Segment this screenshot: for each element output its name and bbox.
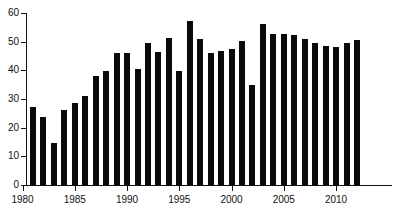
bar bbox=[281, 34, 287, 185]
y-axis-tick-label: 10 bbox=[0, 151, 19, 161]
y-axis-line bbox=[26, 13, 27, 186]
bar bbox=[135, 69, 141, 185]
bar bbox=[218, 51, 224, 185]
bar bbox=[145, 43, 151, 185]
bar bbox=[260, 24, 266, 185]
x-axis-tick bbox=[336, 186, 337, 191]
x-axis-line bbox=[26, 185, 392, 186]
bar bbox=[197, 39, 203, 185]
bar bbox=[176, 71, 182, 185]
bar bbox=[103, 71, 109, 185]
bar bbox=[249, 85, 255, 185]
y-axis-tick-label: 60 bbox=[0, 8, 19, 18]
bar bbox=[291, 35, 297, 185]
y-axis-tick bbox=[21, 99, 26, 100]
y-axis-tick bbox=[21, 42, 26, 43]
bar bbox=[239, 41, 245, 185]
x-axis-tick bbox=[75, 186, 76, 191]
bar bbox=[51, 143, 57, 185]
bar bbox=[82, 96, 88, 185]
x-axis-tick-label: 1985 bbox=[55, 194, 95, 205]
x-axis-tick bbox=[127, 186, 128, 191]
y-axis-tick-label: 0 bbox=[0, 180, 19, 190]
x-axis-tick-label: 2000 bbox=[212, 194, 252, 205]
bar bbox=[354, 40, 360, 185]
y-axis-tick-label: 40 bbox=[0, 65, 19, 75]
bar bbox=[61, 110, 67, 185]
bar bbox=[312, 43, 318, 185]
y-axis-tick bbox=[21, 70, 26, 71]
y-axis-tick-label: 20 bbox=[0, 123, 19, 133]
bar bbox=[166, 38, 172, 185]
x-axis-tick bbox=[179, 186, 180, 191]
bar bbox=[155, 52, 161, 185]
x-axis-tick bbox=[232, 186, 233, 191]
x-axis-tick-label: 1990 bbox=[107, 194, 147, 205]
bar bbox=[93, 76, 99, 185]
x-axis-tick-label: 2010 bbox=[316, 194, 356, 205]
bar bbox=[208, 53, 214, 185]
x-axis-tick-label: 1980 bbox=[3, 194, 43, 205]
bar bbox=[114, 53, 120, 185]
y-axis-tick bbox=[21, 13, 26, 14]
x-axis-tick bbox=[284, 186, 285, 191]
plot-area: 0102030405060 19801985199019952000200520… bbox=[0, 0, 396, 211]
y-axis-tick bbox=[21, 128, 26, 129]
bar bbox=[270, 34, 276, 185]
bar bbox=[72, 103, 78, 185]
bar bbox=[229, 49, 235, 185]
y-axis-tick bbox=[21, 156, 26, 157]
bar bbox=[323, 46, 329, 185]
bar bbox=[40, 117, 46, 185]
bar bbox=[333, 47, 339, 185]
bar bbox=[124, 53, 130, 185]
y-axis-tick-label: 50 bbox=[0, 37, 19, 47]
x-axis-tick-label: 2005 bbox=[264, 194, 304, 205]
x-axis-tick bbox=[23, 186, 24, 191]
bar bbox=[30, 107, 36, 185]
y-axis-tick-label: 30 bbox=[0, 94, 19, 104]
bar-chart: 0102030405060 19801985199019952000200520… bbox=[0, 0, 396, 211]
bar bbox=[187, 21, 193, 185]
bar bbox=[344, 43, 350, 185]
bar bbox=[302, 39, 308, 185]
x-axis-tick-label: 1995 bbox=[159, 194, 199, 205]
